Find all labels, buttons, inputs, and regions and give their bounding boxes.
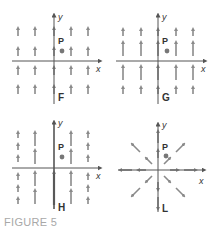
figure-canvas: P y x F P y x G bbox=[0, 0, 217, 243]
y-axis-label: y bbox=[57, 118, 63, 128]
x-axis-label: x bbox=[95, 64, 101, 74]
panel-l: P y x L bbox=[118, 120, 204, 214]
figure-caption: FIGURE 5 bbox=[4, 216, 57, 228]
point-label: P bbox=[162, 36, 168, 46]
y-axis-label: y bbox=[161, 120, 167, 130]
panel-f: P y x F bbox=[12, 12, 101, 104]
panel-h: P y x H bbox=[12, 118, 101, 213]
point-p bbox=[165, 49, 170, 54]
panel-label: G bbox=[162, 92, 170, 103]
panel-label: F bbox=[58, 92, 64, 103]
panel-g: P y x G bbox=[116, 12, 206, 104]
point-p bbox=[60, 49, 65, 54]
panel-label: H bbox=[58, 202, 65, 213]
point-label: P bbox=[162, 142, 168, 152]
x-axis-label: x bbox=[95, 171, 101, 181]
x-axis-label: x bbox=[198, 176, 204, 186]
panel-label: L bbox=[162, 203, 168, 214]
point-label: P bbox=[58, 36, 64, 46]
point-label: P bbox=[58, 142, 64, 152]
y-axis-label: y bbox=[161, 12, 167, 22]
x-axis-label: x bbox=[200, 64, 206, 74]
y-axis-label: y bbox=[57, 12, 63, 22]
point-p bbox=[60, 155, 65, 160]
point-p bbox=[164, 154, 169, 159]
